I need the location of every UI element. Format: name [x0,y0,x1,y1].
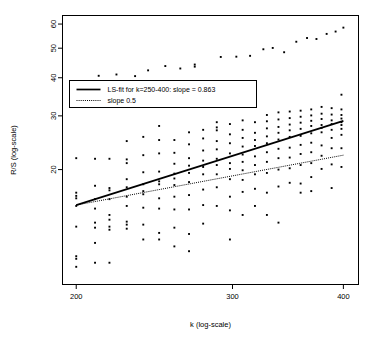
data-point [229,142,231,144]
data-point [142,171,144,173]
data-point [266,127,268,129]
data-point [249,55,251,57]
data-point [266,135,268,137]
data-point [202,223,204,225]
data-point [331,107,333,109]
data-point [142,190,144,192]
data-point [254,145,256,147]
data-point [108,226,110,228]
data-point [147,69,149,71]
data-point [126,205,128,207]
data-point [188,165,190,167]
data-point [278,119,280,121]
data-point [306,37,308,39]
data-point [126,224,128,226]
data-point [126,140,128,142]
data-point [310,142,312,144]
data-point [94,222,96,224]
data-point [126,186,128,188]
data-point [202,166,204,168]
data-point [341,118,343,120]
data-point [242,146,244,148]
y-axis: 2030405060 [50,20,63,174]
data-point [235,56,237,58]
data-point [331,114,333,116]
data-point [142,239,144,241]
data-point [335,31,337,33]
data-point [158,208,160,210]
data-point [188,143,190,145]
data-point [300,116,302,118]
data-point [216,129,218,131]
data-point [126,162,128,164]
data-point [188,250,190,252]
data-point [75,266,77,268]
data-point [242,119,244,121]
legend-label: slope 0.5 [108,97,137,105]
data-point [194,66,196,68]
data-point [126,158,128,160]
y-tick-label: 50 [50,44,59,52]
data-point [341,134,343,136]
data-point [75,258,77,260]
data-point [289,182,291,184]
data-point [254,164,256,166]
data-point [341,166,343,168]
data-point [158,139,160,141]
data-point [242,214,244,216]
data-point [331,187,333,189]
data-point [202,150,204,152]
data-point [216,173,218,175]
data-point [188,233,190,235]
data-point [194,64,196,66]
data-point [278,222,280,224]
data-point [220,56,222,58]
data-point [142,224,144,226]
data-point [108,219,110,221]
data-point [216,164,218,166]
data-point [331,147,333,149]
data-point [289,167,291,169]
data-point [216,205,218,207]
data-point [254,188,256,190]
data-point [108,229,110,231]
data-point [94,227,96,229]
data-point [142,136,144,138]
data-point [331,119,333,121]
data-point [278,132,280,134]
data-point [229,168,231,170]
data-point [242,191,244,193]
data-point [158,197,160,199]
data-point [266,172,268,174]
data-point [142,193,144,195]
data-point [289,129,291,131]
data-point [158,239,160,241]
data-point [341,94,343,96]
data-point [242,129,244,131]
data-point [272,47,274,49]
data-point [289,157,291,159]
data-point [108,187,110,189]
data-point [158,180,160,182]
data-point [321,124,323,126]
data-point [300,164,302,166]
data-point [321,168,323,170]
data-point [75,226,77,228]
data-point [202,173,204,175]
data-point [75,157,77,159]
data-point [321,144,323,146]
data-point [94,185,96,187]
data-point [75,192,77,194]
data-point [310,162,312,164]
data-point [254,155,256,157]
data-point [173,184,175,186]
scatter-plot: 2003004002030405060k (log-scale)R/S (log… [0,0,374,344]
data-point [173,139,175,141]
data-point [229,209,231,211]
data-point [266,214,268,216]
data-point [216,158,218,160]
data-point [331,137,333,139]
data-point [321,131,323,133]
data-point [158,125,160,127]
data-point [94,242,96,244]
